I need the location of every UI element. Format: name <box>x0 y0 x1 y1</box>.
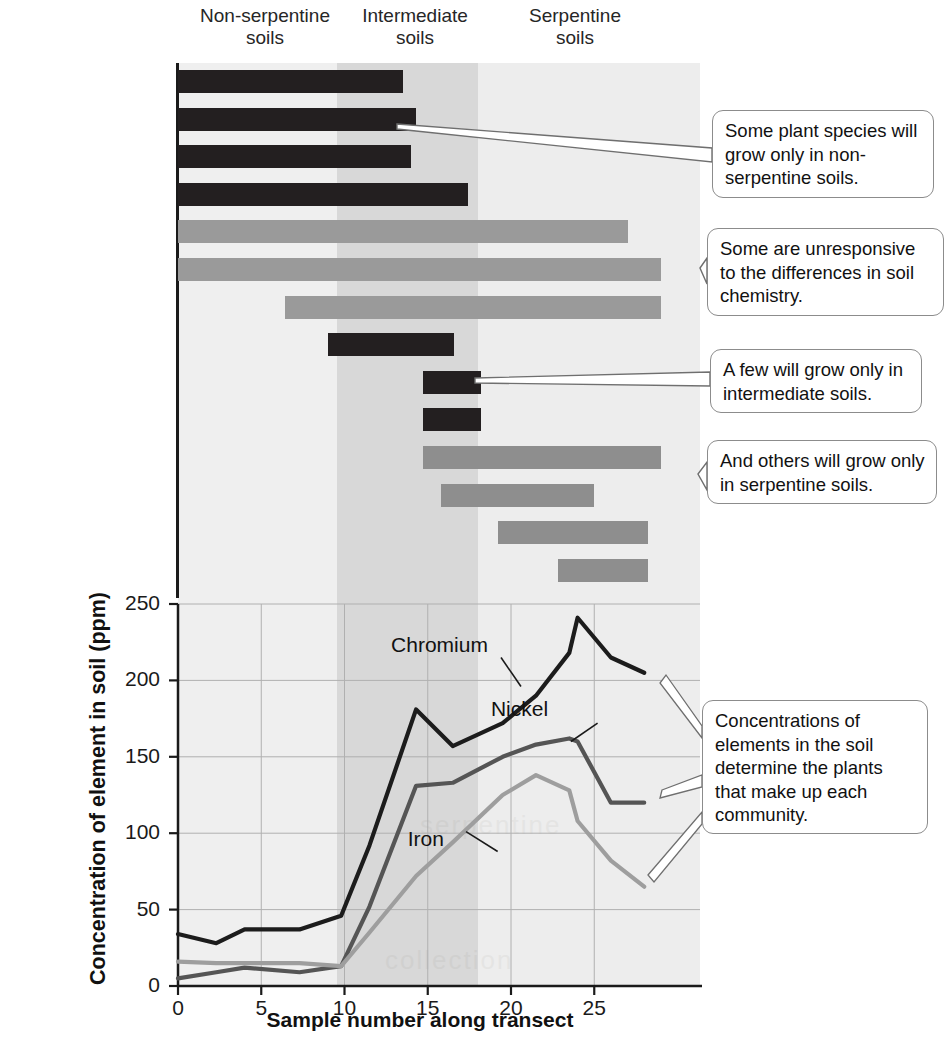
callout-concentrations: Concentrations of elements in the soil d… <box>702 700 928 834</box>
series-line-nickel <box>178 738 644 978</box>
serpentine-soil-figure: Non-serpentine soils Intermediate soils … <box>0 0 944 1040</box>
x-tick-label: 15 <box>408 996 448 1020</box>
series-annotation: Nickel <box>491 697 548 721</box>
callout-intermediate: A few will grow only in intermediate soi… <box>710 349 922 413</box>
x-tick-label: 25 <box>574 996 614 1020</box>
y-tick-label: 100 <box>108 820 160 844</box>
callout-non-serpentine: Some plant species will grow only in non… <box>712 110 934 198</box>
y-tick-label: 0 <box>108 973 160 997</box>
y-tick-label: 250 <box>108 591 160 615</box>
series-annotation: Chromium <box>391 633 488 657</box>
x-tick-label: 10 <box>325 996 365 1020</box>
annotation-leader <box>466 832 498 852</box>
callout-unresponsive: Some are unresponsive to the differences… <box>707 228 944 316</box>
annotation-leader <box>571 723 598 741</box>
y-tick-label: 200 <box>108 667 160 691</box>
x-tick-label: 5 <box>241 996 281 1020</box>
y-tick-label: 150 <box>108 744 160 768</box>
y-tick-label: 50 <box>108 897 160 921</box>
x-tick-label: 20 <box>491 996 531 1020</box>
series-annotation: Iron <box>408 827 444 851</box>
x-tick-label: 0 <box>158 996 198 1020</box>
series-line-chromium <box>178 618 644 943</box>
callout-serpentine: And others will grow only in serpentine … <box>707 440 937 504</box>
